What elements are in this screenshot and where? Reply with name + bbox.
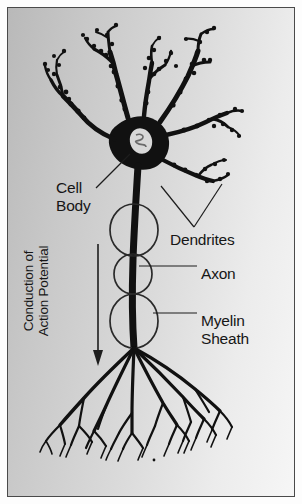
label-cell-body-line1: Cell <box>56 179 82 196</box>
axon-terminal-arbor <box>40 348 232 461</box>
label-myelin-sheath: Myelin Sheath <box>201 313 245 329</box>
leader-dendrites-a <box>161 186 194 227</box>
dendrite-branch-upper-left <box>81 23 128 118</box>
label-conduction-of-action-potential: Conduction of Action Potential <box>21 229 51 354</box>
label-conduction-line1: Conduction of <box>21 251 36 332</box>
dendrite-branch-left <box>43 49 114 139</box>
label-dendrites: Dendrites <box>170 232 235 248</box>
dendritic-spines-left <box>43 49 87 121</box>
label-conduction-line2: Action Potential <box>36 229 51 354</box>
terminal-dot <box>153 459 156 462</box>
leader-cell-body <box>96 154 130 188</box>
label-myelin-line2: Sheath <box>201 331 249 347</box>
terminal-tips <box>40 427 232 461</box>
figure-frame: Cell Body Dendrites Axon Myelin Sheath C… <box>7 7 295 497</box>
dendrite-tree-group <box>43 23 244 183</box>
axon-shaft <box>132 166 138 348</box>
dendrite-branch-right <box>166 107 244 138</box>
label-cell-body: Cell Body <box>56 180 82 196</box>
label-myelin-line1: Myelin <box>201 312 245 329</box>
conduction-direction-arrow <box>93 244 103 366</box>
neuron-illustration <box>8 8 295 497</box>
figure-page: Cell Body Dendrites Axon Myelin Sheath C… <box>0 0 302 504</box>
label-axon: Axon <box>201 266 236 282</box>
dendrite-branch-upper-right <box>160 26 216 122</box>
dendrite-branch-lower-right <box>163 158 230 183</box>
label-cell-body-line2: Body <box>56 198 91 214</box>
leader-dendrites-b <box>194 184 222 227</box>
